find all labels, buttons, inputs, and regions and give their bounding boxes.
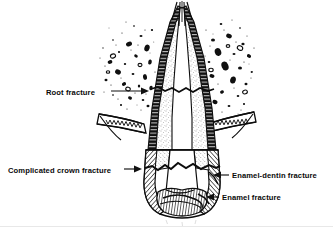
tooth-fracture-figure: Root fracture Complicated crown fracture… (0, 0, 333, 227)
pulp-chamber (166, 150, 198, 192)
label-complicated-crown-fracture-text: Complicated crown fracture (8, 166, 111, 175)
label-enamel-dentin-fracture-text: Enamel-dentin fracture (232, 171, 317, 180)
label-enamel-fracture-text: Enamel fracture (222, 193, 281, 202)
enamel-crown (144, 150, 220, 218)
label-root-fracture-text: Root fracture (46, 88, 95, 97)
